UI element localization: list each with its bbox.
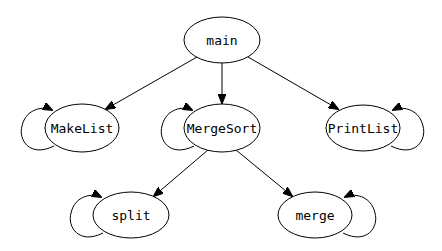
edge-mergesort-to-split: [154, 150, 208, 196]
node-split: split: [93, 192, 169, 238]
node-main: main: [184, 17, 260, 63]
node-makelist: MakeList: [45, 104, 119, 152]
node-label-makelist: MakeList: [51, 121, 114, 136]
node-label-split: split: [111, 208, 150, 223]
node-printlist: PrintList: [326, 105, 400, 151]
node-label-mergesort: MergeSort: [187, 121, 257, 136]
edge-main-to-printlist: [248, 57, 338, 109]
node-label-merge: merge: [295, 208, 334, 223]
node-label-main: main: [206, 33, 237, 48]
edge-main-to-makelist: [106, 57, 197, 109]
call-graph-diagram: main MakeList MergeSort PrintList split …: [0, 0, 442, 251]
node-mergesort: MergeSort: [184, 104, 260, 152]
node-merge: merge: [278, 192, 352, 238]
edge-mergesort-to-merge: [236, 150, 292, 196]
node-label-printlist: PrintList: [328, 121, 398, 136]
